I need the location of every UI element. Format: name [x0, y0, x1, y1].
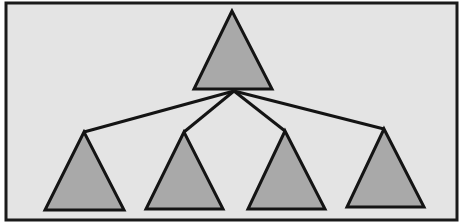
tree-diagram [0, 0, 465, 224]
